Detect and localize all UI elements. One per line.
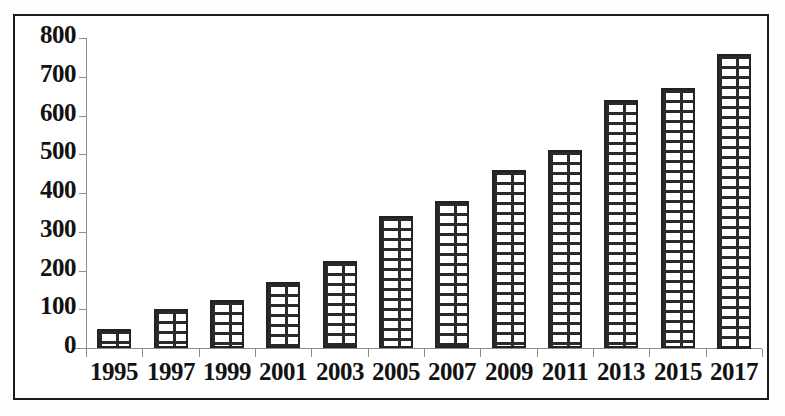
- y-axis-tick-label: 500: [14, 137, 76, 165]
- x-axis-tick-mark: [142, 349, 143, 357]
- y-axis-tick-label: 400: [14, 176, 76, 204]
- bar-2015: [661, 88, 695, 348]
- y-axis-tick-mark: [79, 38, 87, 39]
- x-axis-tick-mark: [311, 349, 312, 357]
- y-axis-tick-mark: [79, 154, 87, 155]
- y-axis-tick-mark: [79, 271, 87, 272]
- x-axis-tick-mark: [255, 349, 256, 357]
- x-axis-tick-mark: [424, 349, 425, 357]
- bar-2005: [379, 216, 413, 348]
- y-axis-tick-label: 200: [14, 254, 76, 282]
- chart-figure: 0100200300400500600700800 19951997199920…: [0, 0, 785, 416]
- bar-2009: [492, 170, 526, 348]
- bar-2017: [717, 54, 751, 349]
- x-axis-label-2017: 2017: [700, 358, 768, 386]
- bar-2007: [435, 201, 469, 348]
- y-axis-tick-label: 700: [14, 60, 76, 88]
- x-axis-tick-mark: [706, 349, 707, 357]
- y-axis-tick-label: 100: [14, 292, 76, 320]
- x-axis-tick-mark: [537, 349, 538, 357]
- bar-2003: [323, 261, 357, 348]
- bar-1995: [97, 329, 131, 348]
- y-axis-tick-label: 300: [14, 215, 76, 243]
- x-axis-tick-mark: [86, 349, 87, 357]
- x-axis-tick-mark: [480, 349, 481, 357]
- y-axis-tick-mark: [79, 77, 87, 78]
- x-axis-tick-mark: [649, 349, 650, 357]
- y-axis-tick-label: 600: [14, 99, 76, 127]
- x-axis-tick-mark: [593, 349, 594, 357]
- y-axis-tick-label: 0: [14, 331, 76, 359]
- x-axis-line: [72, 348, 762, 349]
- y-axis-tick-mark: [79, 309, 87, 310]
- x-axis-tick-mark: [199, 349, 200, 357]
- bar-2001: [266, 282, 300, 348]
- y-axis-tick-mark: [79, 232, 87, 233]
- x-axis-tick-mark: [368, 349, 369, 357]
- y-axis-tick-mark: [79, 193, 87, 194]
- bar-2011: [548, 150, 582, 348]
- x-axis-tick-mark: [762, 349, 763, 357]
- bar-1997: [154, 309, 188, 348]
- y-axis-tick-label: 800: [14, 21, 76, 49]
- y-axis-tick-mark: [79, 116, 87, 117]
- bar-2013: [604, 100, 638, 348]
- bar-1999: [210, 300, 244, 348]
